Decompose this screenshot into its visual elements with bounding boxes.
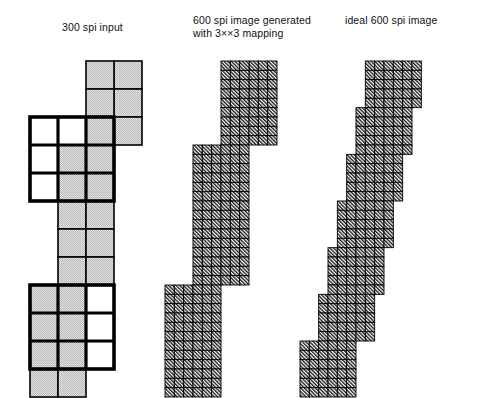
dot-cell — [365, 276, 374, 285]
dot-cell — [240, 126, 249, 135]
dot-cell — [356, 322, 365, 331]
dot-cell — [174, 388, 183, 397]
dot-cell — [365, 285, 374, 294]
dot-cell — [375, 201, 384, 210]
dot-cell — [230, 61, 239, 70]
dot-cell — [258, 108, 267, 117]
dot-cell — [230, 229, 239, 238]
dot-cell — [240, 238, 249, 247]
dot-cell — [365, 154, 374, 163]
pixel-cell-on — [58, 341, 86, 369]
dot-cell — [240, 164, 249, 173]
dot-cell — [365, 266, 374, 275]
pixel-cell-on — [30, 313, 58, 341]
dot-cell — [347, 173, 356, 182]
dot-cell — [212, 388, 221, 397]
dot-cell — [230, 248, 239, 257]
figure-root: 300 spi input 600 spi image generated wi… — [0, 0, 478, 398]
dot-cell — [212, 332, 221, 341]
dot-cell — [221, 89, 230, 98]
dot-cell — [309, 350, 318, 359]
dot-cell — [202, 341, 211, 350]
dot-cell — [347, 350, 356, 359]
pixel-cell-on — [58, 173, 86, 201]
dot-cell — [365, 173, 374, 182]
dot-cell — [212, 350, 221, 359]
dot-cell — [365, 294, 374, 303]
pixel-cell-on — [86, 173, 114, 201]
dot-cell — [165, 322, 174, 331]
dot-cell — [347, 294, 356, 303]
dot-cell — [365, 313, 374, 322]
dot-cell — [221, 229, 230, 238]
dot-cell — [365, 332, 374, 341]
dot-cell — [165, 332, 174, 341]
dot-cell — [165, 341, 174, 350]
dot-cell — [309, 341, 318, 350]
dot-cell — [202, 350, 211, 359]
dot-cell — [184, 388, 193, 397]
dot-cell — [230, 164, 239, 173]
dot-cell — [347, 257, 356, 266]
dot-cell — [174, 322, 183, 331]
dot-cell — [212, 182, 221, 191]
dot-cell — [174, 313, 183, 322]
dot-cell — [221, 266, 230, 275]
dot-cell — [403, 70, 412, 79]
dot-cell — [412, 98, 421, 107]
dot-cell — [258, 117, 267, 126]
dot-cell — [347, 248, 356, 257]
dot-cell — [193, 276, 202, 285]
dot-cell — [230, 117, 239, 126]
pixel-cell-off — [86, 285, 114, 313]
dot-cell — [258, 136, 267, 145]
dot-cell — [384, 154, 393, 163]
dot-cell — [393, 117, 402, 126]
dot-cell — [193, 220, 202, 229]
dot-cell — [221, 80, 230, 89]
dot-cell — [230, 108, 239, 117]
pixel-cell-on — [58, 285, 86, 313]
pixel-cell-off — [30, 117, 58, 145]
dot-cell — [212, 369, 221, 378]
dot-cell — [347, 164, 356, 173]
dot-cell — [240, 108, 249, 117]
dot-cell — [375, 108, 384, 117]
dot-cell — [240, 145, 249, 154]
dot-cell — [212, 266, 221, 275]
dot-cell — [319, 332, 328, 341]
dot-cell — [193, 154, 202, 163]
dot-cell — [365, 61, 374, 70]
dot-cell — [328, 369, 337, 378]
dot-cell — [337, 294, 346, 303]
dot-cell — [221, 276, 230, 285]
dot-cell — [221, 192, 230, 201]
dot-cell — [384, 98, 393, 107]
dot-cell — [240, 61, 249, 70]
dot-cell — [240, 182, 249, 191]
dot-cell — [249, 126, 258, 135]
dot-cell — [221, 238, 230, 247]
pixel-cell-on — [58, 201, 86, 229]
dot-cell — [249, 98, 258, 107]
dot-cell — [230, 98, 239, 107]
dot-cell — [337, 313, 346, 322]
dot-cell — [375, 89, 384, 98]
dot-cell — [249, 80, 258, 89]
dot-cell — [165, 285, 174, 294]
dot-cell — [193, 360, 202, 369]
dot-cell — [212, 248, 221, 257]
dot-cell — [202, 238, 211, 247]
dot-cell — [258, 61, 267, 70]
panel-600-spi-generated-grid — [165, 61, 277, 397]
dot-cell — [337, 210, 346, 219]
dot-cell — [193, 257, 202, 266]
dot-cell — [365, 322, 374, 331]
dot-cell — [230, 145, 239, 154]
pixel-cell-on — [30, 369, 58, 397]
dot-cell — [240, 229, 249, 238]
dot-cell — [347, 360, 356, 369]
dot-cell — [328, 322, 337, 331]
dot-cell — [365, 164, 374, 173]
dot-cell — [403, 117, 412, 126]
